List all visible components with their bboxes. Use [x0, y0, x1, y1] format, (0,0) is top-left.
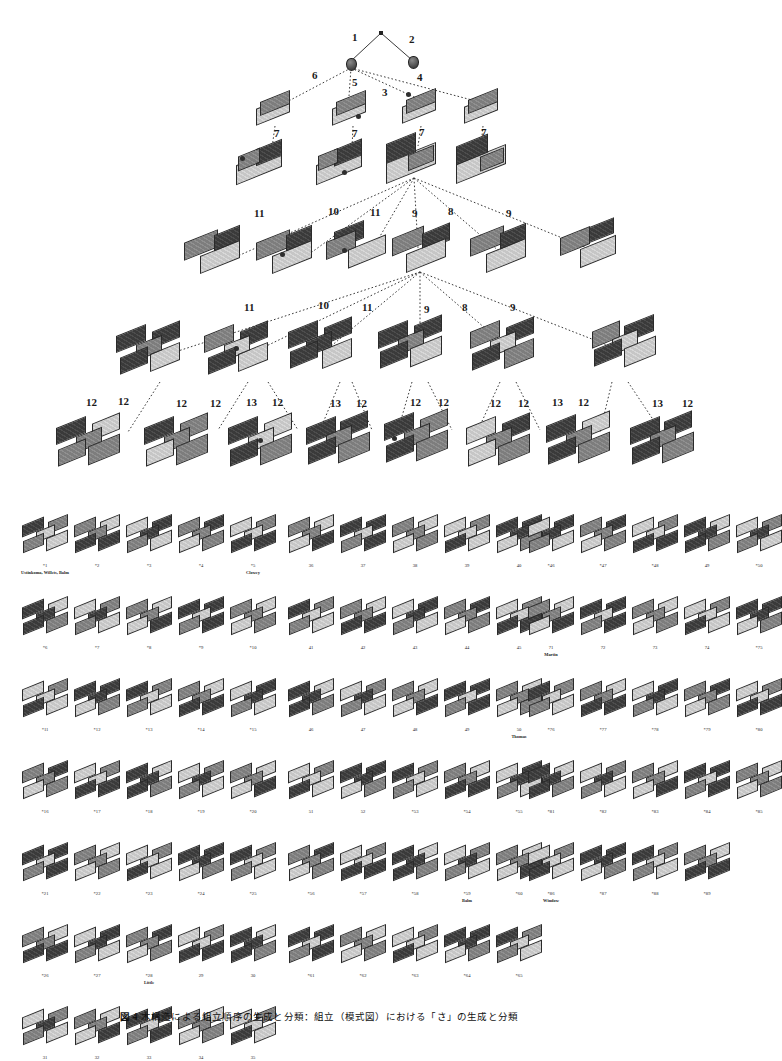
catalog-item[interactable]: 42 — [340, 600, 386, 644]
catalog-item[interactable]: *2 — [74, 518, 120, 562]
catalog-item[interactable]: *79 — [684, 682, 730, 726]
catalog-item[interactable]: *88 — [632, 846, 678, 890]
catalog-item[interactable]: 72 — [580, 600, 626, 644]
catalog-item-label: *19 — [178, 810, 224, 815]
catalog-item[interactable]: *75 — [736, 600, 782, 644]
catalog-item-label: *84 — [684, 810, 730, 815]
catalog-item-name: Martin — [522, 653, 580, 657]
catalog-item[interactable]: *1Ustinkoma, Willets, Balm — [22, 518, 68, 562]
catalog-item[interactable]: *17 — [74, 764, 120, 808]
block-segment — [685, 697, 706, 717]
catalog-item[interactable]: *54 — [444, 764, 490, 808]
catalog-item[interactable]: 48 — [392, 682, 438, 726]
catalog-item[interactable]: *15 — [230, 682, 276, 726]
catalog-item-label: *88 — [632, 892, 678, 897]
catalog-item-label: *87 — [580, 892, 626, 897]
catalog-item-label: 43 — [392, 646, 438, 651]
catalog-item[interactable]: *62 — [340, 928, 386, 972]
catalog-item[interactable]: *76 — [528, 682, 574, 726]
catalog-item[interactable]: *9 — [178, 600, 224, 644]
catalog-item[interactable]: 39 — [444, 518, 490, 562]
catalog-item[interactable]: *80 — [736, 682, 782, 726]
catalog-item[interactable]: *48 — [632, 518, 678, 562]
catalog-item[interactable]: *77 — [580, 682, 626, 726]
block-segment — [289, 697, 310, 717]
catalog-item[interactable]: *57 — [340, 846, 386, 890]
catalog-item[interactable]: 71Martin — [528, 600, 574, 644]
block-segment — [529, 779, 550, 799]
catalog-item[interactable]: *84 — [684, 764, 730, 808]
catalog-item-label: 29 — [178, 974, 224, 979]
catalog-item[interactable]: 73 — [632, 600, 678, 644]
catalog-item-label: *17 — [74, 810, 120, 815]
catalog-item[interactable]: *21 — [22, 846, 68, 890]
catalog-item[interactable]: *5Clowey — [230, 518, 276, 562]
catalog-item-label: *65 — [496, 974, 542, 979]
catalog-item[interactable]: *83 — [632, 764, 678, 808]
catalog-item[interactable]: *61 — [288, 928, 334, 972]
catalog-block-icon — [288, 846, 334, 890]
catalog-item[interactable]: *53 — [392, 764, 438, 808]
catalog-item[interactable]: *23 — [126, 846, 172, 890]
catalog-item[interactable]: 43 — [392, 600, 438, 644]
catalog-item[interactable]: 44 — [444, 600, 490, 644]
catalog-item[interactable]: *18 — [126, 764, 172, 808]
catalog-item-label: *56 — [288, 892, 334, 897]
catalog-item[interactable]: 37 — [340, 518, 386, 562]
catalog-item[interactable]: *10 — [230, 600, 276, 644]
catalog-item[interactable]: 41 — [288, 600, 334, 644]
catalog-item[interactable]: *81 — [528, 764, 574, 808]
catalog-block-icon — [22, 518, 68, 562]
catalog-item[interactable]: *3 — [126, 518, 172, 562]
catalog-item[interactable]: *56 — [288, 846, 334, 890]
catalog-item[interactable]: 52 — [340, 764, 386, 808]
catalog-item[interactable]: *47 — [580, 518, 626, 562]
catalog-item[interactable]: *11 — [22, 682, 68, 726]
block-segment — [529, 697, 550, 717]
catalog-item[interactable]: *19 — [178, 764, 224, 808]
catalog-item[interactable]: *4 — [178, 518, 224, 562]
catalog-item[interactable]: 74 — [684, 600, 730, 644]
catalog-item[interactable]: *12 — [74, 682, 120, 726]
catalog-item[interactable]: *26 — [22, 928, 68, 972]
catalog-item[interactable]: 47 — [340, 682, 386, 726]
catalog-item[interactable]: *59Balm — [444, 846, 490, 890]
catalog-item[interactable]: *46 — [528, 518, 574, 562]
catalog-item[interactable]: *64 — [444, 928, 490, 972]
catalog-item[interactable]: 30 — [230, 928, 276, 972]
catalog-item[interactable]: 51 — [288, 764, 334, 808]
catalog-item[interactable]: *8 — [126, 600, 172, 644]
catalog-item[interactable]: *6 — [22, 600, 68, 644]
catalog-item[interactable]: 49 — [444, 682, 490, 726]
catalog-item-label: *21 — [22, 892, 68, 897]
catalog-item[interactable]: *16 — [22, 764, 68, 808]
catalog-item[interactable]: *22 — [74, 846, 120, 890]
catalog-item[interactable]: *89 — [684, 846, 730, 890]
catalog-item[interactable]: 32 — [74, 1010, 120, 1054]
catalog-item[interactable]: *20 — [230, 764, 276, 808]
catalog-item[interactable]: *65 — [496, 928, 542, 972]
catalog-item[interactable]: *63 — [392, 928, 438, 972]
catalog-item[interactable]: *78 — [632, 682, 678, 726]
catalog-item[interactable]: 29 — [178, 928, 224, 972]
catalog-item[interactable]: *85 — [736, 764, 782, 808]
catalog-item[interactable]: 46 — [288, 682, 334, 726]
catalog-item[interactable]: *82 — [580, 764, 626, 808]
catalog-item[interactable]: 49 — [684, 518, 730, 562]
catalog-item[interactable]: *13 — [126, 682, 172, 726]
catalog-item[interactable]: *7 — [74, 600, 120, 644]
catalog-item[interactable]: *28Little — [126, 928, 172, 972]
catalog-item[interactable]: *87 — [580, 846, 626, 890]
catalog-item[interactable]: *24 — [178, 846, 224, 890]
catalog-item[interactable]: *25 — [230, 846, 276, 890]
catalog-item[interactable]: *86Window — [528, 846, 574, 890]
catalog-item[interactable]: *50 — [736, 518, 782, 562]
catalog-item[interactable]: *58 — [392, 846, 438, 890]
catalog-item[interactable]: *27 — [74, 928, 120, 972]
catalog-item[interactable]: 36 — [288, 518, 334, 562]
catalog-item[interactable]: 38 — [392, 518, 438, 562]
catalog-item[interactable]: *14 — [178, 682, 224, 726]
catalog-block-icon — [126, 846, 172, 890]
catalog-item[interactable]: 31 — [22, 1010, 68, 1054]
catalog-block-icon — [580, 846, 626, 890]
